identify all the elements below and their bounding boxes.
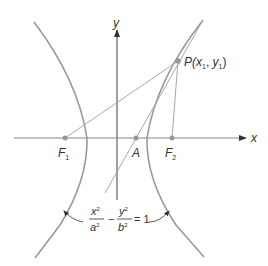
x-axis-label: x bbox=[250, 131, 258, 145]
focus-f1-point bbox=[63, 136, 68, 141]
y-axis-label: y bbox=[112, 16, 120, 30]
point-a-label: A bbox=[131, 146, 140, 160]
svg-text:x2: x2 bbox=[90, 205, 101, 217]
hyperbola-diagram: x y F1 A F2 P(x1, y1) x2 a2 − y2 b2 = 1 bbox=[0, 0, 268, 266]
focus-f2-label: F2 bbox=[165, 146, 176, 161]
callout-arrow-right bbox=[149, 211, 169, 222]
svg-text:a2: a2 bbox=[90, 221, 100, 233]
point-a bbox=[134, 136, 139, 141]
hyperbola-equation: x2 a2 − y2 b2 = 1 bbox=[89, 205, 150, 233]
point-p bbox=[175, 58, 181, 64]
svg-text:y2: y2 bbox=[118, 205, 129, 217]
svg-text:b2: b2 bbox=[118, 221, 128, 233]
point-p-label: P(x1, y1) bbox=[184, 55, 226, 70]
focus-f1-label: F1 bbox=[58, 146, 69, 161]
hyperbola-left-branch bbox=[34, 22, 87, 258]
tangent-line bbox=[105, 20, 203, 193]
svg-text:−: − bbox=[108, 213, 114, 225]
focus-f2-point bbox=[170, 136, 175, 141]
svg-text:= 1: = 1 bbox=[134, 213, 150, 225]
focal-line-f1-p bbox=[65, 61, 178, 138]
